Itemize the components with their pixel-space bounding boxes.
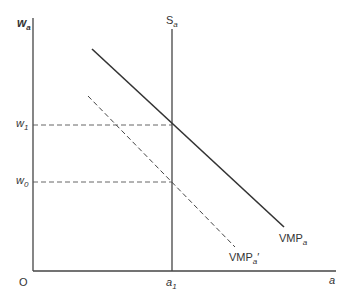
origin-label: O bbox=[19, 276, 28, 288]
diagram-canvas bbox=[0, 0, 350, 298]
y-axis-label: wa bbox=[17, 16, 31, 32]
vmp-line bbox=[92, 49, 284, 227]
w1-label: w1 bbox=[16, 117, 28, 132]
x-axis-label: a bbox=[329, 274, 335, 286]
vmp-prime-label: VMPa′ bbox=[229, 251, 259, 266]
vmp-prime-line bbox=[88, 96, 235, 247]
vmp-label: VMPa bbox=[279, 232, 307, 247]
a1-label: a1 bbox=[166, 276, 177, 291]
supply-label: Sa bbox=[166, 14, 178, 29]
w0-label: w0 bbox=[16, 174, 28, 189]
